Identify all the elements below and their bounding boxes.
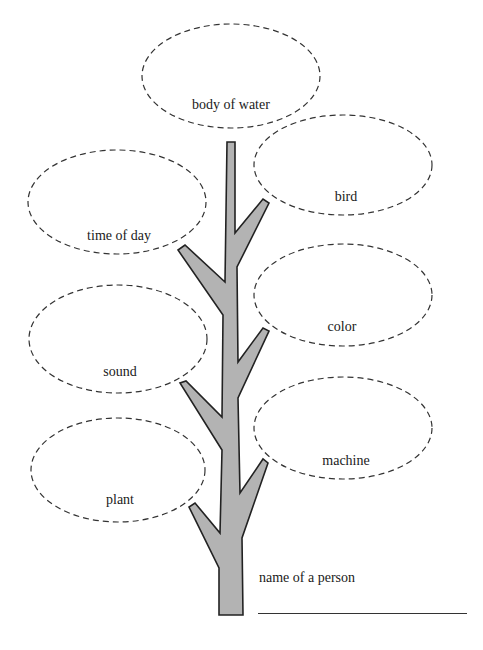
bubble-label-bird: bird	[335, 190, 358, 204]
bubble-label-color: color	[328, 320, 357, 334]
bubble-body-of-water[interactable]	[142, 24, 320, 128]
name-of-person-answer-line[interactable]	[258, 613, 467, 614]
bubble-label-sound: sound	[103, 365, 136, 379]
name-of-person-label: name of a person	[259, 571, 355, 585]
bubble-label-plant: plant	[106, 493, 134, 507]
bubble-label-machine: machine	[322, 454, 369, 468]
bubble-label-time-of-day: time of day	[87, 229, 151, 243]
tree-trunk	[178, 142, 269, 615]
bubble-label-body-of-water: body of water	[192, 98, 270, 112]
